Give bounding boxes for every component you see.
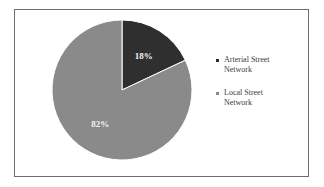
legend: Arterial Street Network Local Street Net…	[216, 55, 316, 121]
legend-item-local: Local Street Network	[216, 88, 316, 108]
legend-swatch-icon	[216, 92, 219, 95]
legend-label: Network	[224, 98, 316, 108]
slice-label: 82%	[91, 119, 109, 129]
legend-swatch-icon	[216, 59, 219, 62]
legend-label: Network	[224, 65, 316, 75]
legend-label: Local Street	[224, 88, 316, 98]
legend-label: Arterial Street	[224, 55, 316, 65]
slice-label: 18%	[135, 51, 153, 61]
legend-item-arterial: Arterial Street Network	[216, 55, 316, 75]
